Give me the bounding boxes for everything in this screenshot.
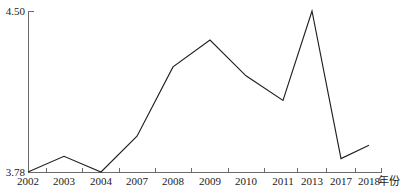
x-axis-label-2017: 2017 [330,176,352,187]
x-axis-label-2004: 2004 [90,176,112,187]
line-chart: 4.50 3.78 2002 2003 2004 2007 2008 2009 … [0,0,402,193]
x-axis-title: 年份 [378,176,400,187]
x-axis-label-2010: 2010 [235,176,257,187]
x-axis-label-2018: 2018 [358,176,380,187]
x-axis-label-2008: 2008 [162,176,184,187]
x-axis-label-2009: 2009 [199,176,221,187]
x-axis-label-2011: 2011 [272,176,294,187]
chart-plot-area [0,0,402,193]
x-axis-label-2003: 2003 [53,176,75,187]
x-axis-label-2002: 2002 [17,176,39,187]
x-axis-label-2013: 2013 [301,176,323,187]
x-axis-label-2007: 2007 [126,176,148,187]
data-series-line [28,11,369,172]
y-axis-label-max: 4.50 [0,6,25,17]
